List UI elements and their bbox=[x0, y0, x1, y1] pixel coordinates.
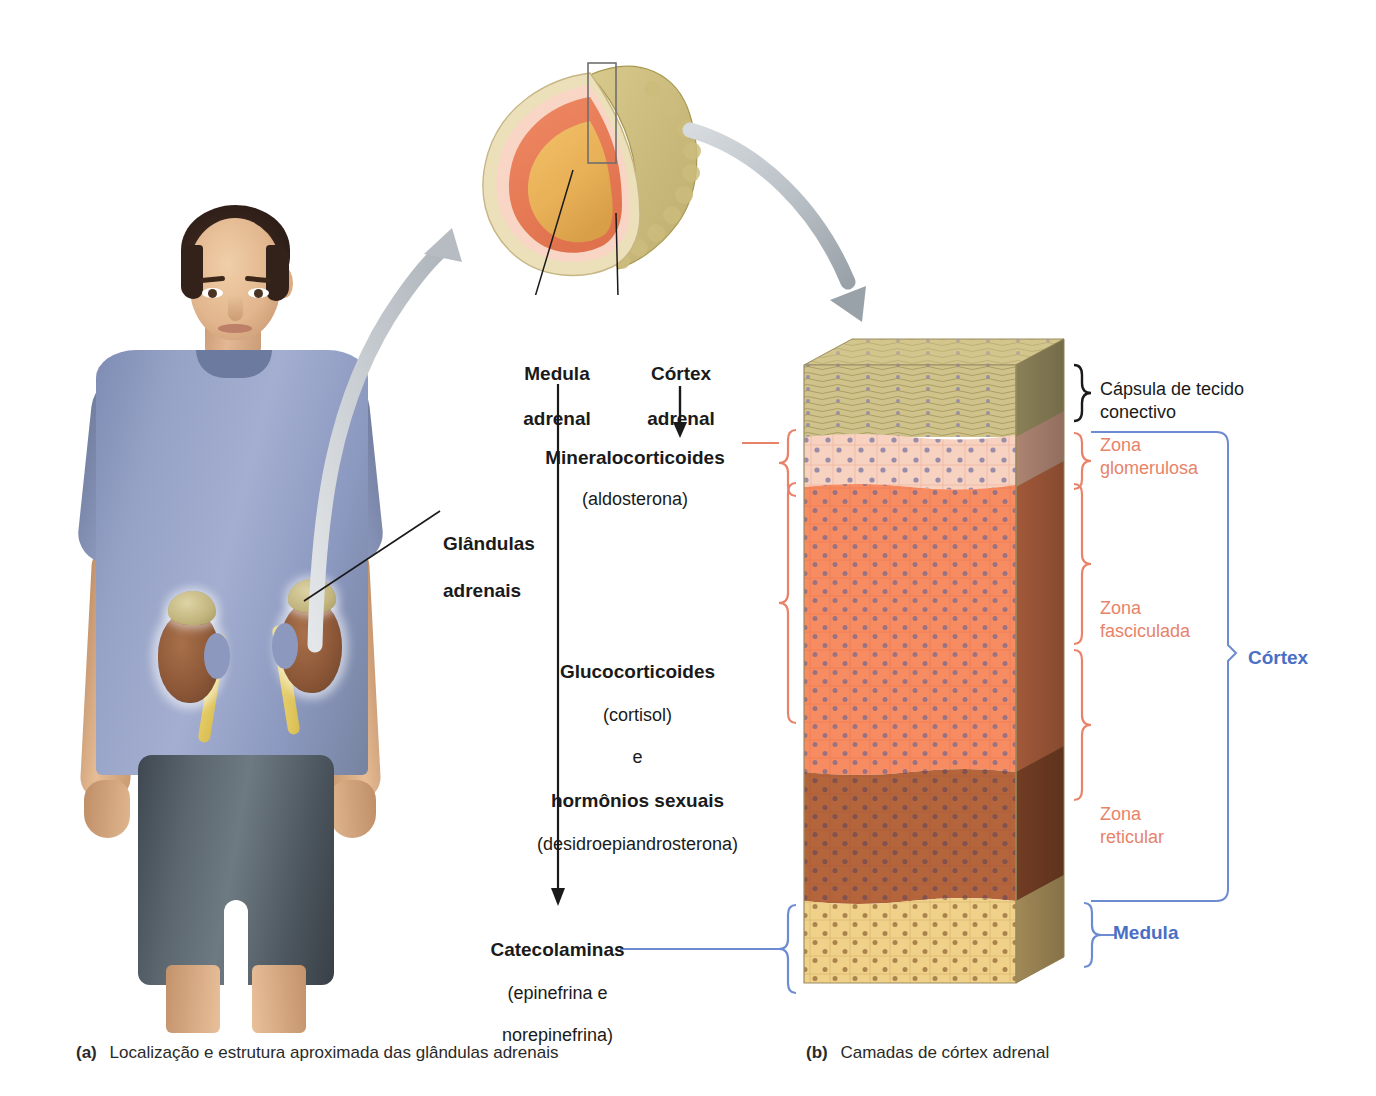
label-group-medulla: Medula bbox=[1113, 922, 1178, 945]
label-zona-fasciculada: Zona fasciculada bbox=[1100, 597, 1190, 642]
caption-b-marker: (b) bbox=[806, 1043, 828, 1062]
caption-a: (a) Localização e estrutura aproximada d… bbox=[76, 1043, 558, 1063]
caption-b: (b) Camadas de córtex adrenal bbox=[806, 1043, 1049, 1063]
label-mineralocorticoids: Mineralocorticoides (aldosterona) bbox=[520, 428, 750, 530]
brace-zona-glomerulosa bbox=[1074, 433, 1091, 489]
label-group-cortex: Córtex bbox=[1248, 647, 1308, 670]
catecholamines-title: Catecolaminas bbox=[440, 938, 675, 962]
brace-zona-fasciculata bbox=[1074, 484, 1091, 644]
label-glucocorticoids: Glucocorticoides (cortisol) e hormônios … bbox=[490, 640, 785, 875]
sex-hormones-title: hormônios sexuais bbox=[490, 789, 785, 813]
caption-a-text: Localização e estrutura aproximada das g… bbox=[110, 1043, 559, 1062]
catecholamines-detail: (epinefrina e bbox=[440, 982, 675, 1005]
caption-b-text: Camadas de córtex adrenal bbox=[840, 1043, 1049, 1062]
caption-a-marker: (a) bbox=[76, 1043, 97, 1062]
label-zona-reticular: Zona reticular bbox=[1100, 803, 1164, 848]
brace-medulla-outer bbox=[1084, 903, 1101, 967]
label-zona-glomerulosa: Zona glomerulosa bbox=[1100, 434, 1198, 479]
adrenal-gland-figure: Medula adrenal Córtex adrenal Mineraloco… bbox=[0, 0, 1376, 1096]
glucocorticoids-detail: (cortisol) bbox=[490, 704, 785, 727]
glucocorticoids-conjunction: e bbox=[490, 746, 785, 769]
label-adrenal-glands: Glândulas adrenais bbox=[443, 508, 535, 603]
glucocorticoids-title: Glucocorticoides bbox=[490, 660, 785, 684]
adrenal-glands-leader-line bbox=[300, 505, 450, 605]
mineralocorticoids-detail: (aldosterona) bbox=[520, 489, 750, 511]
brace-catecholamines bbox=[779, 905, 796, 993]
brace-zona-reticular bbox=[1074, 650, 1091, 800]
label-capsule: Cápsula de tecido conectivo bbox=[1100, 378, 1244, 423]
mineralocorticoids-title: Mineralocorticoides bbox=[520, 447, 750, 470]
brace-capsule bbox=[1074, 365, 1091, 421]
sex-hormones-detail: (desidroepiandrosterona) bbox=[490, 833, 785, 856]
